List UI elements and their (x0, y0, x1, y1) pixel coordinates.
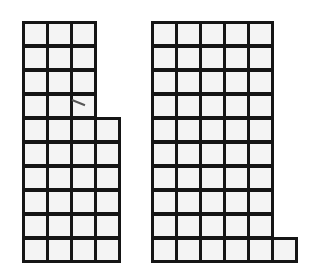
grid-square (175, 213, 202, 239)
grid-square (22, 69, 49, 95)
grid-square (70, 45, 97, 71)
grid-square (94, 141, 121, 167)
grid-square (223, 69, 250, 95)
grid-square (247, 69, 274, 95)
grid-square (151, 189, 178, 215)
grid-square (151, 213, 178, 239)
grid-square (175, 117, 202, 143)
grid-square (223, 21, 250, 47)
grid-square (22, 117, 49, 143)
grid-square (175, 45, 202, 71)
grid-square (271, 237, 298, 263)
grid-square (223, 45, 250, 71)
grid-square (175, 93, 202, 119)
grid-square (70, 117, 97, 143)
grid-square (46, 45, 73, 71)
grid-square (46, 165, 73, 191)
grid-square (22, 141, 49, 167)
grid-square (199, 189, 226, 215)
grid-square (94, 189, 121, 215)
grid-square (46, 237, 73, 263)
grid-square (94, 237, 121, 263)
grid-square (151, 21, 178, 47)
grid-square (199, 117, 226, 143)
grid-square (22, 213, 49, 239)
grid-square (199, 213, 226, 239)
grid-square (22, 165, 49, 191)
grid-square (223, 189, 250, 215)
grid-square (247, 213, 274, 239)
grid-square (151, 165, 178, 191)
grid-square (223, 141, 250, 167)
grid-square (175, 237, 202, 263)
grid-square (46, 69, 73, 95)
grid-square (175, 165, 202, 191)
grid-square (151, 93, 178, 119)
grid-square (151, 69, 178, 95)
grid-square (223, 93, 250, 119)
grid-square (199, 93, 226, 119)
grid-square (22, 237, 49, 263)
grid-square (46, 213, 73, 239)
grid-square (70, 213, 97, 239)
grid-square (151, 117, 178, 143)
grid-square (175, 69, 202, 95)
grid-square (46, 21, 73, 47)
grid-square (247, 141, 274, 167)
grid-square (247, 45, 274, 71)
grid-square (46, 93, 73, 119)
grid-square (151, 237, 178, 263)
grid-square (46, 141, 73, 167)
grid-square (94, 117, 121, 143)
grid-square (22, 21, 49, 47)
grid-square (175, 141, 202, 167)
grid-square (70, 21, 97, 47)
grid-square (199, 21, 226, 47)
grid-square (22, 189, 49, 215)
grid-square (46, 189, 73, 215)
grid-square (199, 237, 226, 263)
grid-square (22, 45, 49, 71)
grid-square (247, 93, 274, 119)
grid-square (70, 141, 97, 167)
grid-square (247, 189, 274, 215)
grid-square (151, 45, 178, 71)
grid-square (223, 213, 250, 239)
grid-square (247, 165, 274, 191)
grid-square (247, 21, 274, 47)
grid-square (175, 189, 202, 215)
grid-square (199, 45, 226, 71)
grid-square (247, 117, 274, 143)
grid-square (70, 189, 97, 215)
grid-square (175, 21, 202, 47)
grid-square (22, 93, 49, 119)
grid-square (223, 237, 250, 263)
grid-square (199, 165, 226, 191)
grid-square (70, 165, 97, 191)
grid-square (199, 69, 226, 95)
grid-square (199, 141, 226, 167)
grid-square (70, 69, 97, 95)
grid-square (70, 237, 97, 263)
grid-square (94, 165, 121, 191)
grid-square (94, 213, 121, 239)
grid-square (151, 141, 178, 167)
grid-square (223, 117, 250, 143)
grid-square (247, 237, 274, 263)
grid-square (223, 165, 250, 191)
grid-square (46, 117, 73, 143)
